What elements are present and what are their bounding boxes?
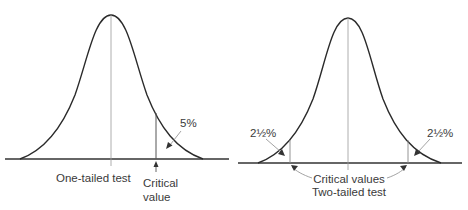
- critical-left-arrowhead-icon: [291, 165, 298, 171]
- critical-values-label: Critical values: [309, 173, 389, 186]
- right-tail-arrow: [418, 139, 430, 152]
- one-tailed-chart: [5, 15, 229, 172]
- critical-value-arrowhead-icon: [154, 161, 159, 167]
- critical-value-label-line2: value: [143, 191, 171, 204]
- two-tailed-chart: [238, 18, 462, 178]
- right-tail-label: 2½%: [427, 127, 453, 140]
- critical-value-label-line1: Critical: [143, 177, 178, 190]
- right-normal-curve: [258, 18, 441, 163]
- one-tailed-title: One-tailed test: [56, 172, 131, 185]
- two-tailed-title: Two-tailed test: [305, 186, 393, 199]
- tail-5-label: 5%: [180, 117, 197, 130]
- left-tail-label: 2½%: [250, 127, 276, 140]
- critical-right-arrowhead-icon: [400, 165, 407, 171]
- left-tail-arrow: [266, 139, 281, 152]
